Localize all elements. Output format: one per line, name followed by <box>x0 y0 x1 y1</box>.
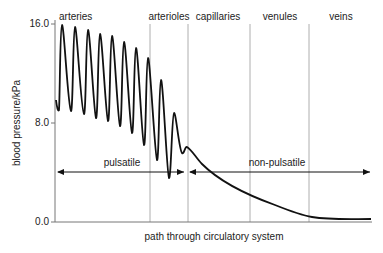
region-dividers <box>150 24 309 222</box>
region-label-veins: veins <box>329 11 352 22</box>
pulsatile-label: pulsatile <box>104 157 141 168</box>
y-tick-label-16: 16.0 <box>30 18 50 29</box>
blood-pressure-chart: 16.0 8.0 0.0 blood pressure/kPa path thr… <box>0 0 383 253</box>
y-axis-label: blood pressure/kPa <box>11 79 22 166</box>
non-pulsatile-label: non-pulsatile <box>249 157 306 168</box>
y-tick-label-8: 8.0 <box>35 117 49 128</box>
region-label-arteries: arteries <box>59 11 92 22</box>
region-label-capillaries: capillaries <box>196 11 240 22</box>
y-tick-label-0: 0.0 <box>35 216 49 227</box>
x-axis-label: path through circulatory system <box>145 231 284 242</box>
blood-pressure-curve <box>56 25 371 219</box>
region-label-arterioles: arterioles <box>148 11 189 22</box>
region-label-venules: venules <box>263 11 297 22</box>
